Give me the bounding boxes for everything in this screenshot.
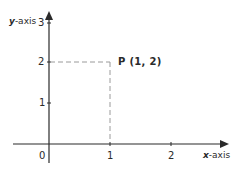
x-tick-label-1: 1 (107, 151, 113, 161)
x-tick-label-0: 0 (39, 151, 45, 161)
x-axis-suffix: -axis (209, 150, 230, 160)
point-p-label: P (1, 2) (118, 57, 162, 67)
x-axis-label: x-axis (203, 151, 230, 160)
y-axis-suffix: -axis (15, 16, 36, 26)
x-tick-label-2: 2 (168, 151, 174, 161)
y-tick-label-2: 2 (38, 57, 44, 67)
y-axis-arrow-icon (45, 11, 53, 20)
y-axis-label: y-axis (9, 17, 36, 26)
y-tick-label-1: 1 (39, 98, 45, 108)
y-tick-label-3: 3 (38, 18, 44, 28)
x-axis-arrow-icon (220, 140, 229, 148)
coordinate-diagram: y-axis 3 2 1 0 1 2 x-axis P (1, 2) (0, 0, 236, 170)
